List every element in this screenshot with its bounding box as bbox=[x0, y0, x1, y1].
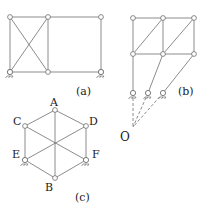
joint-node-icon bbox=[161, 16, 166, 21]
member-line bbox=[133, 18, 163, 54]
joint-node-icon bbox=[8, 15, 13, 20]
pin-support-icon bbox=[144, 90, 152, 99]
support-hatch-icon bbox=[6, 76, 14, 78]
member-line bbox=[25, 110, 55, 126]
pin-support-icon bbox=[6, 69, 14, 78]
vertex-label-e: E bbox=[12, 149, 20, 160]
pin-support-icon bbox=[97, 69, 105, 78]
caption-b: (b) bbox=[178, 86, 194, 97]
figure-b-truss bbox=[129, 16, 197, 127]
joint-node-icon bbox=[84, 124, 89, 129]
pin-support-icon bbox=[21, 157, 29, 166]
vertex-label-d: D bbox=[89, 116, 98, 127]
joint-node-icon bbox=[192, 16, 197, 21]
support-hatch-icon bbox=[21, 164, 29, 166]
joint-node-icon bbox=[192, 52, 197, 57]
vertex-label-c: C bbox=[13, 116, 21, 127]
support-pin-icon bbox=[145, 90, 150, 95]
support-pin-icon bbox=[83, 157, 88, 162]
joint-node-icon bbox=[131, 52, 136, 57]
member-line bbox=[55, 110, 86, 126]
figure-a-truss bbox=[6, 15, 105, 78]
pin-support-icon bbox=[159, 90, 167, 99]
caption-a: (a) bbox=[76, 86, 91, 97]
member-line bbox=[163, 18, 194, 54]
joint-node-icon bbox=[99, 15, 104, 20]
joint-node-icon bbox=[46, 15, 51, 20]
pin-support-icon bbox=[129, 90, 137, 99]
support-hatch-icon bbox=[144, 97, 152, 99]
vertex-label-f: F bbox=[92, 149, 100, 160]
diagram-svg bbox=[0, 0, 209, 208]
joint-node-icon bbox=[23, 124, 28, 129]
member-line bbox=[55, 160, 86, 178]
vertex-label-b: B bbox=[45, 182, 53, 193]
caption-c: (c) bbox=[75, 192, 90, 203]
joint-node-icon bbox=[131, 16, 136, 21]
support-hatch-icon bbox=[159, 97, 167, 99]
support-pin-icon bbox=[22, 157, 27, 162]
pole-label-o: O bbox=[120, 131, 130, 143]
joint-node-icon bbox=[53, 176, 58, 181]
support-pin-icon bbox=[7, 69, 12, 74]
support-hatch-icon bbox=[129, 97, 137, 99]
support-hatch-icon bbox=[97, 76, 105, 78]
vertex-label-a: A bbox=[50, 97, 58, 108]
support-hatch-icon bbox=[82, 164, 90, 166]
figure-c-hexagon bbox=[21, 108, 90, 181]
support-pin-icon bbox=[130, 90, 135, 95]
member-line bbox=[25, 160, 55, 178]
member-line bbox=[133, 93, 163, 127]
joint-node-icon bbox=[161, 52, 166, 57]
joint-node-icon bbox=[46, 70, 51, 75]
structural-diagrams: (a) (b) O A C D E F B (c) bbox=[0, 0, 209, 208]
support-pin-icon bbox=[160, 90, 165, 95]
member-line bbox=[148, 54, 163, 93]
support-pin-icon bbox=[98, 69, 103, 74]
